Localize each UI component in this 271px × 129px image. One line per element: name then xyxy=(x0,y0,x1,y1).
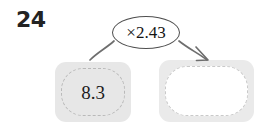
output-answer-box[interactable] xyxy=(159,60,254,122)
operation-label: ×2.43 xyxy=(126,24,165,41)
output-box-dashed-outline xyxy=(165,66,248,116)
input-box-dashed-outline: 8.3 xyxy=(61,68,125,116)
input-value-box[interactable]: 8.3 xyxy=(55,62,131,122)
worksheet-problem-canvas: 24 ×2.43 8.3 xyxy=(0,0,271,129)
operation-bubble: ×2.43 xyxy=(112,16,180,49)
input-value: 8.3 xyxy=(81,83,105,102)
output-curve xyxy=(179,41,207,60)
problem-number: 24 xyxy=(16,9,46,31)
input-curve xyxy=(90,41,114,60)
output-arrowhead-icon xyxy=(196,47,208,61)
